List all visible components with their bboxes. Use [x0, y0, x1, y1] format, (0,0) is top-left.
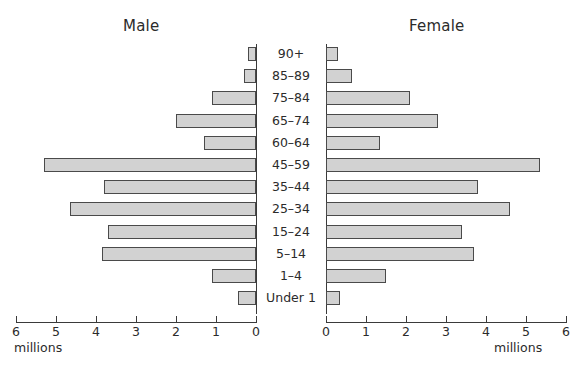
axis-tick-label-female-4: 4 [474, 324, 498, 339]
bar-male-75-84 [212, 91, 256, 105]
axis-tick-label-female-6: 6 [554, 324, 578, 339]
axis-tick-label-male-4: 4 [84, 324, 108, 339]
age-group-label: 65–74 [256, 111, 326, 131]
pyramid-row: 25–34 [0, 199, 583, 219]
pyramid-row: 1–4 [0, 266, 583, 286]
panel-title-female: Female [409, 17, 464, 35]
pyramid-row: 60–64 [0, 133, 583, 153]
bar-male-25-34 [70, 202, 256, 216]
bar-female-5-14 [326, 247, 474, 261]
axis-unit-female: millions [494, 340, 542, 355]
axis-tick-label-male-5: 5 [44, 324, 68, 339]
axis-tick-female-6 [566, 316, 567, 322]
age-group-label: 35–44 [256, 177, 326, 197]
bar-female-25-34 [326, 202, 510, 216]
bar-male-85-89 [244, 69, 256, 83]
pyramid-row: 85–89 [0, 66, 583, 86]
bar-male-90+ [248, 47, 256, 61]
pyramid-row: 15–24 [0, 222, 583, 242]
axis-tick-label-male-3: 3 [124, 324, 148, 339]
axis-tick-male-3 [136, 316, 137, 322]
bar-male-45-59 [44, 158, 256, 172]
axis-tick-male-6 [16, 316, 17, 322]
age-group-label: 5–14 [256, 244, 326, 264]
age-group-label: 1–4 [256, 266, 326, 286]
bar-male-under-1 [238, 291, 256, 305]
axis-tick-label-female-5: 5 [514, 324, 538, 339]
bar-female-1-4 [326, 269, 386, 283]
pyramid-row: 5–14 [0, 244, 583, 264]
bar-male-5-14 [102, 247, 256, 261]
x-axis-female [326, 322, 567, 323]
pyramid-row: 65–74 [0, 111, 583, 131]
bar-female-under-1 [326, 291, 340, 305]
axis-tick-male-4 [96, 316, 97, 322]
pyramid-row: 35–44 [0, 177, 583, 197]
age-group-label: 15–24 [256, 222, 326, 242]
age-group-label: 85–89 [256, 66, 326, 86]
axis-tick-female-1 [366, 316, 367, 322]
axis-tick-label-male-2: 2 [164, 324, 188, 339]
bar-female-35-44 [326, 180, 478, 194]
x-axis-male [16, 322, 257, 323]
population-pyramid-chart: Male Female 90+85–8975–8465–7460–6445–59… [0, 0, 583, 372]
axis-tick-label-female-1: 1 [354, 324, 378, 339]
bar-male-15-24 [108, 225, 256, 239]
axis-tick-male-1 [216, 316, 217, 322]
axis-tick-label-male-0: 0 [244, 324, 268, 339]
pyramid-row: Under 1 [0, 288, 583, 308]
bar-female-60-64 [326, 136, 380, 150]
age-group-label: 60–64 [256, 133, 326, 153]
axis-tick-female-5 [526, 316, 527, 322]
age-group-label: Under 1 [256, 288, 326, 308]
pyramid-row: 45–59 [0, 155, 583, 175]
axis-tick-female-4 [486, 316, 487, 322]
axis-tick-label-female-3: 3 [434, 324, 458, 339]
bar-female-65-74 [326, 114, 438, 128]
axis-unit-male: millions [14, 340, 62, 355]
bar-male-35-44 [104, 180, 256, 194]
axis-tick-label-female-2: 2 [394, 324, 418, 339]
pyramid-row: 75–84 [0, 88, 583, 108]
age-group-label: 25–34 [256, 199, 326, 219]
panel-title-male: Male [123, 17, 159, 35]
axis-tick-female-3 [446, 316, 447, 322]
axis-tick-male-2 [176, 316, 177, 322]
axis-tick-male-0 [256, 316, 257, 322]
age-group-label: 75–84 [256, 88, 326, 108]
axis-tick-label-male-1: 1 [204, 324, 228, 339]
age-group-label: 45–59 [256, 155, 326, 175]
axis-tick-label-male-6: 6 [4, 324, 28, 339]
bar-female-45-59 [326, 158, 540, 172]
axis-tick-female-2 [406, 316, 407, 322]
bar-female-90+ [326, 47, 338, 61]
axis-tick-label-female-0: 0 [314, 324, 338, 339]
age-group-label: 90+ [256, 44, 326, 64]
bar-female-75-84 [326, 91, 410, 105]
axis-tick-male-5 [56, 316, 57, 322]
axis-tick-female-0 [326, 316, 327, 322]
bar-female-15-24 [326, 225, 462, 239]
bar-female-85-89 [326, 69, 352, 83]
bar-male-65-74 [176, 114, 256, 128]
bar-male-1-4 [212, 269, 256, 283]
bar-male-60-64 [204, 136, 256, 150]
pyramid-row: 90+ [0, 44, 583, 64]
